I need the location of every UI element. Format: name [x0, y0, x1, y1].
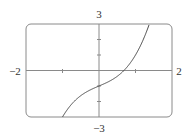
x-max-label: 2	[176, 65, 182, 77]
x-min-label: −2	[9, 65, 21, 77]
function-plot: 3 −3 −2 2	[0, 0, 192, 138]
y-max-label: 3	[96, 8, 102, 20]
y-min-label: −3	[93, 122, 105, 134]
